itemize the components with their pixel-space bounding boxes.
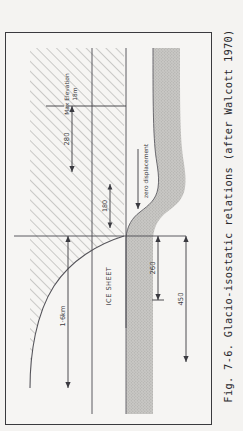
- label-260: 260: [149, 262, 157, 275]
- label-zero-displacement: zero displacement: [143, 143, 150, 198]
- crust-band: [126, 48, 186, 414]
- label-max-elevation-value: 18m: [72, 87, 78, 100]
- figure-frame: 1·6km 450 260: [5, 32, 212, 425]
- figure-canvas: 1·6km 450 260: [6, 33, 211, 424]
- callout-zero-displacement: zero displacement: [135, 143, 150, 209]
- label-max-elevation: Max Elevation: [64, 73, 70, 115]
- label-ice-thickness: 1·6km: [59, 306, 67, 327]
- figure-caption-container: Fig. 7-6. Glacio-isostatic relations (af…: [212, 0, 243, 431]
- figure-caption: Fig. 7-6. Glacio-isostatic relations (af…: [222, 29, 234, 402]
- label-450: 450: [177, 293, 185, 306]
- label-180: 180: [101, 200, 109, 212]
- label-ice-sheet: ICE SHEET: [105, 266, 113, 305]
- dimension-450: 450: [177, 236, 189, 362]
- label-280: 280: [63, 133, 71, 146]
